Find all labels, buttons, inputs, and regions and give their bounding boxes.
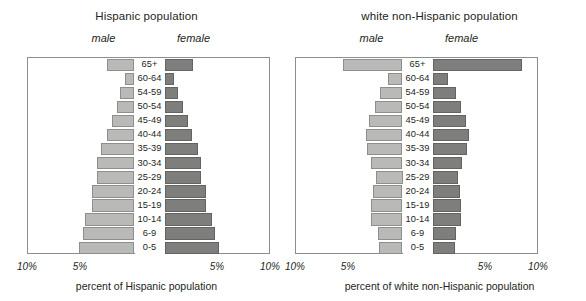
age-group-label: 20-24 <box>403 185 433 199</box>
x-tick-left-5: 5% <box>328 261 368 272</box>
bar-male <box>371 213 402 225</box>
pyramid-row: 25-29 <box>296 171 537 185</box>
pyramid-row: 6-9 <box>28 227 269 241</box>
bar-female <box>433 185 461 197</box>
bar-rows: 65+60-6454-5950-5445-4940-4435-3930-3425… <box>28 58 269 253</box>
bar-male <box>92 199 135 211</box>
bar-female <box>433 129 469 141</box>
bar-female <box>433 87 457 99</box>
pyramid-row: 15-19 <box>296 199 537 213</box>
age-group-label: 30-34 <box>135 157 165 171</box>
age-group-label: 60-64 <box>135 72 165 86</box>
age-group-label: 6-9 <box>403 227 433 241</box>
pyramid-row: 54-59 <box>28 86 269 100</box>
bar-female <box>165 242 220 254</box>
bar-female <box>433 227 457 239</box>
age-group-label: 65+ <box>135 58 165 72</box>
bar-male <box>79 242 135 254</box>
pyramid-row: 0-5 <box>296 241 537 255</box>
age-group-label: 35-39 <box>403 142 433 156</box>
pyramid-row: 54-59 <box>296 86 537 100</box>
x-tick-left-10: 10% <box>275 261 315 272</box>
x-tick-right-5: 5% <box>465 261 505 272</box>
bar-male <box>97 171 134 183</box>
bar-male <box>378 227 403 239</box>
bar-female <box>433 242 455 254</box>
age-group-label: 10-14 <box>135 213 165 227</box>
pyramid-row: 50-54 <box>28 100 269 114</box>
age-group-label: 15-19 <box>403 199 433 213</box>
age-group-label: 25-29 <box>135 171 165 185</box>
age-group-label: 30-34 <box>403 157 433 171</box>
bar-female <box>165 199 207 211</box>
pyramid-row: 45-49 <box>296 114 537 128</box>
bar-female <box>165 129 193 141</box>
x-tick-right-5: 5% <box>197 261 237 272</box>
bar-male <box>366 129 402 141</box>
bar-male <box>83 227 134 239</box>
age-group-label: 0-5 <box>403 241 433 255</box>
pyramid-row: 40-44 <box>296 128 537 142</box>
pyramid-row: 15-19 <box>28 199 269 213</box>
pyramid-row: 10-14 <box>28 213 269 227</box>
pyramid-row: 0-5 <box>28 241 269 255</box>
x-axis-caption: percent of Hispanic population <box>0 280 293 292</box>
age-group-label: 65+ <box>403 58 433 72</box>
pyramid-row: 40-44 <box>28 128 269 142</box>
x-tick-right-10: 10% <box>518 261 558 272</box>
age-group-label: 45-49 <box>403 114 433 128</box>
bar-male <box>117 101 134 113</box>
age-group-label: 25-29 <box>403 171 433 185</box>
pyramid-row: 35-39 <box>296 142 537 156</box>
bar-female <box>433 73 449 85</box>
age-group-label: 45-49 <box>135 114 165 128</box>
bar-female <box>165 59 194 71</box>
bar-male <box>376 171 403 183</box>
age-group-label: 10-14 <box>403 213 433 227</box>
pyramid-row: 30-34 <box>296 157 537 171</box>
bar-male <box>120 87 134 99</box>
bar-female <box>433 171 459 183</box>
bar-male <box>371 157 402 169</box>
panel-title: white non-Hispanic population <box>293 10 586 22</box>
x-axis-caption: percent of white non-Hispanic population <box>293 280 586 292</box>
bar-male <box>373 185 403 197</box>
pyramid-row: 20-24 <box>296 185 537 199</box>
bar-female <box>165 115 188 127</box>
bar-male <box>343 59 403 71</box>
bar-male <box>388 73 402 85</box>
bar-rows: 65+60-6454-5950-5445-4940-4435-3930-3425… <box>296 58 537 253</box>
bar-female <box>433 115 466 127</box>
age-group-label: 50-54 <box>403 100 433 114</box>
x-tick-left-5: 5% <box>60 261 100 272</box>
bar-female <box>433 101 462 113</box>
bar-male <box>97 157 134 169</box>
panel-hispanic: Hispanic populationmalefemale65+60-6454-… <box>0 0 293 301</box>
pyramid-row: 6-9 <box>296 227 537 241</box>
bar-female <box>433 199 462 211</box>
bar-female <box>165 87 179 99</box>
bar-male <box>107 59 135 71</box>
panel-white-non-hispanic: white non-Hispanic populationmalefemale6… <box>293 0 586 301</box>
bar-male <box>92 185 135 197</box>
pyramid-row: 65+ <box>28 58 269 72</box>
bar-female <box>165 227 215 239</box>
age-group-label: 6-9 <box>135 227 165 241</box>
age-group-label: 0-5 <box>135 241 165 255</box>
bar-female <box>433 157 463 169</box>
plot-area: 65+60-6454-5950-5445-4940-4435-3930-3425… <box>295 57 538 254</box>
legend-label-male: male <box>74 32 134 44</box>
bar-female <box>433 213 462 225</box>
bar-male <box>369 115 402 127</box>
legend-label-male: male <box>342 32 402 44</box>
pyramid-row: 45-49 <box>28 114 269 128</box>
pyramid-row: 25-29 <box>28 171 269 185</box>
bar-male <box>101 143 134 155</box>
bar-male <box>125 73 134 85</box>
bar-male <box>375 101 403 113</box>
age-group-label: 40-44 <box>135 128 165 142</box>
pyramid-row: 65+ <box>296 58 537 72</box>
bar-female <box>165 143 198 155</box>
age-group-label: 15-19 <box>135 199 165 213</box>
pyramid-row: 50-54 <box>296 100 537 114</box>
